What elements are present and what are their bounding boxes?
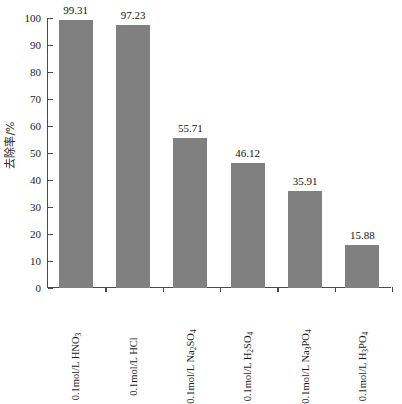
bar-group[interactable]: 35.91 (288, 18, 322, 288)
x-axis-category-text: 0.1mol/L Na3PO4 (300, 329, 311, 403)
x-axis-category-text: 0.1mol/L H2SO4 (242, 332, 253, 402)
bar-value-label: 15.88 (350, 229, 375, 242)
y-axis-tick-label: 50 (30, 145, 41, 161)
bar-group[interactable]: 46.12 (231, 18, 265, 288)
y-axis-tick-label: 70 (30, 91, 41, 107)
bar[interactable] (288, 191, 322, 288)
y-axis-tick-label: 80 (30, 64, 41, 80)
y-axis-tick-label: 90 (30, 37, 41, 53)
bar-group[interactable]: 99.31 (59, 18, 93, 288)
x-axis-category-label: 0.1mol/L H3PO4 (334, 290, 391, 372)
x-axis-category-label: 0.1mol/L Na3PO4 (276, 290, 333, 372)
y-axis-tick-label: 100 (25, 10, 42, 26)
x-axis-category-label: 0.1mol/L HNO3 (47, 290, 104, 372)
bar-group[interactable]: 55.71 (173, 18, 207, 288)
x-axis-labels: 0.1mol/L HNO30.1mol/L HCl0.1mol/L Na2SO4… (47, 290, 391, 372)
bar[interactable] (345, 245, 379, 288)
bar-value-label: 55.71 (178, 122, 203, 135)
y-axis-tick-label: 40 (30, 172, 41, 188)
bar-value-label: 46.12 (235, 147, 260, 160)
bar[interactable] (231, 163, 265, 288)
x-axis-category-text: 0.1mol/L HCl (128, 337, 139, 396)
x-axis-category-label: 0.1mol/L H2SO4 (219, 290, 276, 372)
x-axis-category-label: 0.1mol/L HCl (104, 290, 161, 372)
bar[interactable] (59, 20, 93, 288)
y-axis-tick-label: 20 (30, 226, 41, 242)
y-axis-tick-label: 10 (30, 253, 41, 269)
x-axis-category-text: 0.1mol/L Na2SO4 (185, 329, 196, 403)
bars-layer: 99.3197.2355.7146.1235.9115.88 (47, 18, 391, 288)
bar[interactable] (116, 25, 150, 288)
x-axis-category-label: 0.1mol/L Na2SO4 (162, 290, 219, 372)
bar[interactable] (173, 138, 207, 288)
x-axis-tick-mark (392, 287, 393, 292)
y-axis-tick-label: 60 (30, 118, 41, 134)
x-axis-category-text: 0.1mol/L H3PO4 (357, 332, 368, 402)
y-axis-title-text: 去除率/% (1, 121, 17, 168)
bar-value-label: 99.31 (63, 4, 88, 17)
bar-group[interactable]: 15.88 (345, 18, 379, 288)
y-axis-tick-label: 0 (36, 280, 42, 296)
y-axis-tick-label: 30 (30, 199, 41, 215)
x-axis-category-text: 0.1mol/L HNO3 (70, 333, 81, 401)
bar-group[interactable]: 97.23 (116, 18, 150, 288)
bar-value-label: 97.23 (121, 9, 146, 22)
y-axis-title: 去除率/% (0, 0, 18, 290)
bar-value-label: 35.91 (293, 175, 318, 188)
